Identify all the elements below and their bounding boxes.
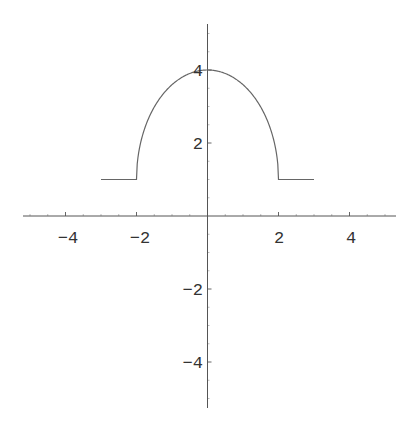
- y-tick-label-neg2: −2: [183, 281, 203, 300]
- x-tick-label-neg4: −4: [58, 229, 78, 248]
- x-tick-label-4: 4: [346, 229, 356, 248]
- y-tick-label-4: 4: [193, 62, 203, 81]
- x-tick-label-neg2: −2: [130, 229, 150, 248]
- x-tick-label-2: 2: [274, 229, 284, 248]
- y-tick-label-2: 2: [193, 135, 203, 154]
- function-plot: −4 −2 2 4 4 2 −2 −4: [0, 0, 413, 424]
- y-tick-label-neg4: −4: [183, 354, 203, 373]
